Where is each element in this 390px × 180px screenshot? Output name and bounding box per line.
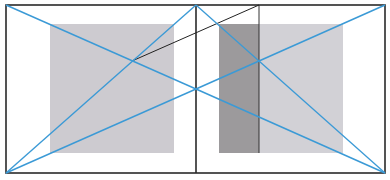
left-gray-square — [50, 24, 174, 153]
diagram-canvas — [0, 0, 390, 180]
right-light-band — [259, 24, 343, 153]
